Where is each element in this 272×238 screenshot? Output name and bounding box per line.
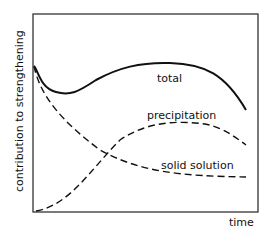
solid-solution-label: solid solution	[161, 159, 234, 172]
x-axis-label: time	[229, 216, 254, 229]
y-axis-label: contribution to strengthening	[13, 30, 26, 192]
total-curve	[34, 63, 246, 110]
precipitation-label: precipitation	[147, 109, 216, 122]
plot-frame	[33, 14, 258, 212]
total-label: total	[157, 72, 182, 85]
strengthening-diagram: total precipitation solid solution time …	[0, 0, 272, 238]
